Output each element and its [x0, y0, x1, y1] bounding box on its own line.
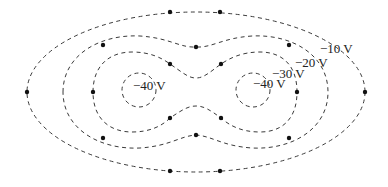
mid-contour-dots [101, 43, 291, 140]
contour-minus20 [63, 36, 328, 148]
point-dot [194, 133, 198, 137]
point-dot [218, 10, 222, 14]
label-minus40-left: −40 V [133, 78, 166, 93]
contour-minus30 [93, 52, 297, 132]
point-dot [101, 43, 105, 47]
point-dot [219, 116, 223, 120]
point-dot [25, 90, 29, 94]
inner-contour-dots [91, 62, 299, 120]
point-dot [168, 169, 172, 173]
point-dot [168, 116, 172, 120]
point-dot [295, 90, 299, 94]
point-dot [91, 90, 95, 94]
point-dot [168, 62, 172, 66]
label-minus40-right: −40 V [253, 76, 286, 91]
contour-minus10 [27, 12, 365, 172]
point-dot [168, 10, 172, 14]
equipotential-diagram: −10 V −20 V −30 V −40 V −40 V [0, 0, 388, 187]
point-dot [194, 45, 198, 49]
point-dot [287, 136, 291, 140]
point-dot [101, 136, 105, 140]
label-minus10: −10 V [320, 41, 353, 56]
point-dot [287, 43, 291, 47]
point-dot [218, 169, 222, 173]
point-dot [219, 62, 223, 66]
point-dot [363, 90, 367, 94]
